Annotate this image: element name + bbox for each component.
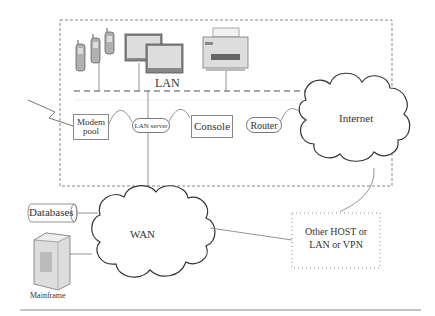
- mainframe-label: Mainframe: [30, 291, 66, 300]
- monitors-icon: [125, 34, 183, 73]
- databases-label: Databases: [29, 206, 74, 218]
- router-node: Router: [246, 117, 282, 133]
- other-label-1: Other HOST or: [292, 226, 380, 239]
- printer-icon: [203, 28, 248, 71]
- other-label-2: LAN or VPN: [292, 239, 380, 252]
- console-label: Console: [194, 121, 230, 133]
- internet-label: Internet: [339, 112, 373, 124]
- mainframe-icon: [34, 233, 70, 290]
- mobile-phones-icon: [76, 28, 114, 71]
- router-label: Router: [250, 120, 277, 131]
- lan-label: LAN: [155, 76, 180, 91]
- other-node: Other HOST or LAN or VPN: [292, 226, 380, 251]
- lan-server-node: LAN server: [132, 118, 170, 133]
- wan-label: WAN: [130, 228, 155, 240]
- modem-pool-label-2: pool: [83, 127, 99, 136]
- modem-pool-node: Modem pool: [73, 114, 109, 140]
- console-node: Console: [191, 115, 233, 138]
- external-line: [28, 100, 73, 126]
- diagram-canvas: [0, 0, 435, 316]
- lan-server-label: LAN server: [134, 122, 167, 130]
